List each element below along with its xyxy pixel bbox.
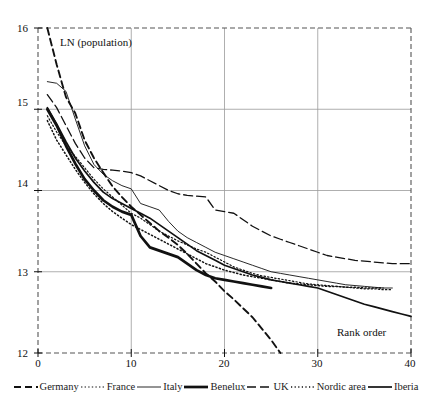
y-tick-label-16: 16 xyxy=(6,22,28,34)
legend-label: France xyxy=(106,381,137,392)
x-axis-title: Rank order xyxy=(337,326,386,338)
axis-ticks xyxy=(34,28,411,357)
legend-swatch-iberia xyxy=(367,381,393,391)
legend-item-nordic-area: Nordic area xyxy=(290,381,367,392)
series-nordic-area xyxy=(47,121,383,288)
legend-label: Nordic area xyxy=(316,381,367,392)
legend-label: Italy xyxy=(162,381,183,392)
legend-item-uk: UK xyxy=(246,381,289,392)
x-tick-label-10: 10 xyxy=(119,357,143,369)
legend-swatch-uk xyxy=(246,381,272,391)
y-tick-label-13: 13 xyxy=(6,266,28,278)
x-tick-label-20: 20 xyxy=(212,357,236,369)
legend-label: Benelux xyxy=(209,381,246,392)
legend-label: Germany xyxy=(39,381,80,392)
legend-swatch-germany xyxy=(13,381,39,391)
chart-figure: 16 15 14 13 12 0 10 20 30 40 LN (populat… xyxy=(0,0,432,402)
legend-item-france: France xyxy=(80,381,137,392)
x-tick-label-0: 0 xyxy=(26,357,50,369)
y-tick-label-14: 14 xyxy=(6,177,28,189)
y-tick-label-15: 15 xyxy=(6,96,28,108)
legend-label: UK xyxy=(272,381,289,392)
legend-item-iberia: Iberia xyxy=(367,381,419,392)
chart-plot-area xyxy=(0,0,432,402)
legend-swatch-nordic-area xyxy=(290,381,316,391)
x-tick-label-30: 30 xyxy=(305,357,329,369)
y-tick-label-12: 12 xyxy=(6,347,28,359)
legend-item-benelux: Benelux xyxy=(183,381,246,392)
series-uk xyxy=(47,95,411,264)
legend-item-germany: Germany xyxy=(13,381,80,392)
legend-swatch-benelux xyxy=(183,381,209,391)
legend-label: Iberia xyxy=(393,381,419,392)
x-tick-label-40: 40 xyxy=(398,357,422,369)
legend-item-italy: Italy xyxy=(136,381,183,392)
legend-swatch-italy xyxy=(136,381,162,391)
chart-legend: GermanyFranceItalyBeneluxUKNordic areaIb… xyxy=(0,376,432,396)
legend-swatch-france xyxy=(80,381,106,391)
y-axis-title: LN (population) xyxy=(60,36,132,48)
